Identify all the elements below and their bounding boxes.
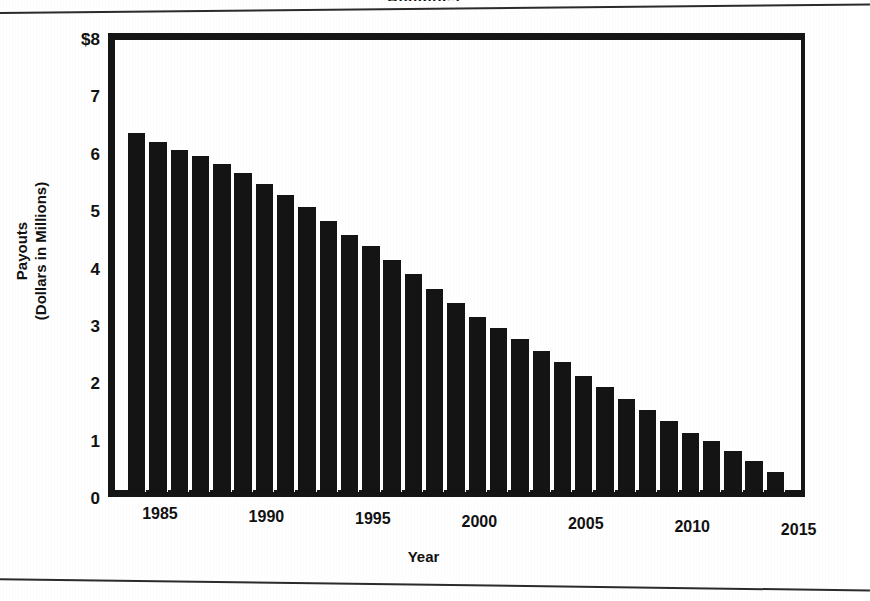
y-axis-title-line-2: (Dollars in Millions) — [31, 156, 50, 346]
x-axis-tick-label: 2010 — [657, 518, 727, 536]
y-axis-tick-label: 2 — [52, 374, 100, 394]
y-axis-tick-label: 7 — [52, 87, 100, 107]
y-axis-tick-label: $8 — [52, 30, 100, 50]
y-axis-title: Payouts (Dollars in Millions) — [12, 156, 50, 346]
bar — [383, 260, 401, 492]
y-axis-tick-labels: $876543210 — [52, 22, 100, 508]
bar — [639, 410, 657, 492]
bar — [234, 173, 252, 492]
bar — [320, 221, 338, 492]
bar — [362, 246, 380, 492]
y-axis-title-line-1: Payouts — [12, 156, 31, 346]
bar — [660, 421, 678, 492]
y-axis-tick-label: 5 — [52, 202, 100, 222]
x-axis-tick-label: 1985 — [125, 505, 195, 523]
bar — [277, 195, 295, 492]
x-axis-title: Year — [0, 548, 847, 565]
bar — [447, 303, 465, 492]
bar — [703, 441, 721, 492]
y-axis-tick-label: 1 — [52, 432, 100, 452]
bar — [724, 451, 742, 492]
bar-series — [128, 40, 788, 492]
bar — [298, 207, 316, 492]
bar — [128, 133, 146, 492]
bar — [256, 184, 274, 492]
bar — [511, 339, 529, 492]
bar — [341, 235, 359, 492]
bar — [767, 472, 785, 492]
x-axis-tick-label: 2005 — [551, 515, 621, 533]
bar — [405, 274, 423, 492]
plot-area — [115, 40, 801, 492]
bar — [745, 461, 763, 492]
y-axis-tick-label: 3 — [52, 317, 100, 337]
x-axis-tick-label: 2015 — [764, 521, 834, 539]
y-axis-tick-label: 4 — [52, 260, 100, 280]
bar — [192, 156, 210, 492]
x-axis-tick-label: 1995 — [338, 510, 408, 528]
x-axis-tick-label: 2000 — [444, 513, 514, 531]
bar — [554, 362, 572, 492]
y-axis-tick-label: 6 — [52, 145, 100, 165]
bar — [596, 387, 614, 492]
bar — [213, 164, 231, 492]
x-axis-tick-label: 1990 — [231, 508, 301, 526]
bar — [618, 399, 636, 492]
bar — [171, 150, 189, 492]
bar — [575, 376, 593, 492]
bar — [469, 317, 487, 492]
bar — [426, 289, 444, 492]
bar — [149, 142, 167, 492]
x-axis-tick-labels: 1985199019952000200520102015 — [0, 505, 847, 535]
bar — [682, 433, 700, 492]
bar — [533, 351, 551, 492]
bar — [490, 328, 508, 492]
